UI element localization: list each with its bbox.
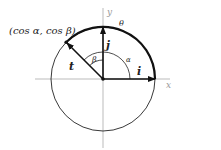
vector-i-label: i xyxy=(137,65,141,78)
vector-t-label: t xyxy=(69,60,74,73)
vector-j-label: j xyxy=(104,39,110,52)
unit-circle-diagram: (cos α, cos β) y x θ α β j i t xyxy=(0,0,221,150)
y-axis-label: y xyxy=(106,7,113,17)
point-label: (cos α, cos β) xyxy=(9,25,76,36)
alpha-label: α xyxy=(126,56,131,64)
theta-label: θ xyxy=(119,19,124,28)
origin-dot xyxy=(101,77,105,81)
beta-label: β xyxy=(91,55,97,64)
x-axis-label: x xyxy=(166,80,171,90)
point-dot xyxy=(64,40,68,44)
